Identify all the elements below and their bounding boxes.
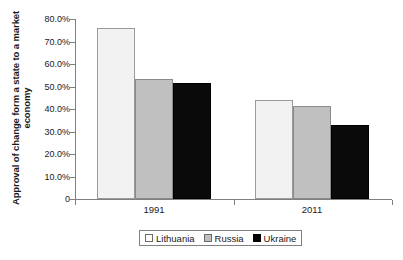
y-axis-tick-mark bbox=[70, 87, 75, 88]
bars-layer bbox=[0, 0, 403, 260]
y-axis-tick-mark bbox=[70, 19, 75, 20]
y-axis-tick-mark bbox=[70, 132, 75, 133]
legend-swatch-icon bbox=[253, 234, 261, 242]
legend-swatch-icon bbox=[145, 234, 153, 242]
y-axis-tick-mark bbox=[70, 177, 75, 178]
legend-swatch-icon bbox=[204, 234, 212, 242]
x-axis-tick-mark bbox=[75, 200, 76, 205]
legend-entry-russia[interactable]: Russia bbox=[204, 233, 244, 244]
chart-legend: LithuaniaRussiaUkraine bbox=[139, 230, 302, 246]
x-axis-tick-mark bbox=[392, 200, 393, 205]
legend-label: Lithuania bbox=[156, 233, 195, 244]
bar-lithuania-2011 bbox=[255, 100, 293, 199]
legend-entry-ukraine[interactable]: Ukraine bbox=[253, 233, 297, 244]
x-axis-category-label-1991: 1991 bbox=[114, 204, 194, 215]
bar-russia-1991 bbox=[135, 79, 173, 199]
legend-label: Russia bbox=[215, 233, 244, 244]
legend-label: Ukraine bbox=[264, 233, 297, 244]
y-axis-tick-mark bbox=[70, 42, 75, 43]
legend-entry-lithuania[interactable]: Lithuania bbox=[145, 233, 195, 244]
y-axis-tick-mark bbox=[70, 64, 75, 65]
bar-chart: Approval of change form a state to a mar… bbox=[0, 0, 403, 260]
x-axis-tick-mark bbox=[234, 200, 235, 205]
y-axis-tick-mark bbox=[70, 109, 75, 110]
y-axis-tick-mark bbox=[70, 154, 75, 155]
bar-lithuania-1991 bbox=[97, 28, 135, 199]
x-axis-category-label-2011: 2011 bbox=[272, 204, 352, 215]
bar-ukraine-2011 bbox=[331, 125, 369, 199]
bar-russia-2011 bbox=[293, 106, 331, 199]
bar-ukraine-1991 bbox=[173, 83, 211, 199]
